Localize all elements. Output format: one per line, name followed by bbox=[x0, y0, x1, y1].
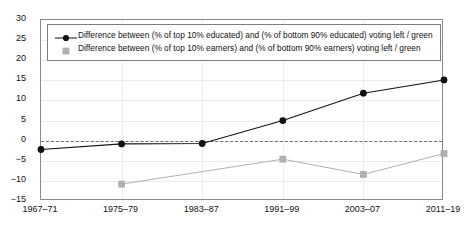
y-axis-tick-label: −15 bbox=[0, 195, 26, 204]
data-point-marker bbox=[360, 90, 367, 97]
y-axis-tick-label: 30 bbox=[0, 14, 26, 23]
series-1 bbox=[38, 77, 448, 153]
x-axis-tick-label: 2003–07 bbox=[327, 205, 397, 214]
legend-entry-educated[interactable]: Difference between (% of top 10% educate… bbox=[54, 29, 433, 42]
square-marker-icon bbox=[54, 43, 78, 55]
data-point-marker bbox=[279, 117, 286, 124]
x-axis-tick-label: 1967–71 bbox=[5, 205, 75, 214]
x-axis-tick-label: 2011–19 bbox=[408, 205, 470, 214]
y-axis-tick-label: 10 bbox=[0, 94, 26, 103]
series-2 bbox=[118, 150, 447, 187]
y-axis-tick-label: 15 bbox=[0, 74, 26, 83]
circle-line-marker-icon bbox=[54, 30, 78, 42]
y-axis-tick-label: −10 bbox=[0, 175, 26, 184]
x-axis-tick-label: 1991–99 bbox=[247, 205, 317, 214]
chart-container: 302520151050−5−10−15 1967–711975–791983–… bbox=[0, 0, 470, 231]
y-axis-tick-label: 0 bbox=[0, 135, 26, 144]
data-point-marker bbox=[199, 140, 206, 147]
data-point-marker bbox=[360, 171, 367, 178]
y-axis-tick-label: 5 bbox=[0, 115, 26, 124]
legend-label-educated: Difference between (% of top 10% educate… bbox=[78, 31, 433, 40]
y-axis-tick-label: 25 bbox=[0, 34, 26, 43]
series-line bbox=[41, 80, 444, 150]
data-point-marker bbox=[118, 181, 125, 188]
data-point-marker bbox=[38, 146, 45, 153]
y-axis-tick-label: −5 bbox=[0, 155, 26, 164]
x-axis-tick-label: 1983–87 bbox=[166, 205, 236, 214]
legend-label-earners: Difference between (% of top 10% earners… bbox=[78, 44, 421, 53]
data-point-marker bbox=[279, 156, 286, 163]
data-point-marker bbox=[441, 150, 448, 157]
data-point-marker bbox=[441, 77, 448, 84]
chart-legend: Difference between (% of top 10% educate… bbox=[47, 24, 441, 61]
legend-entry-earners[interactable]: Difference between (% of top 10% earners… bbox=[54, 42, 433, 55]
y-axis-tick-label: 20 bbox=[0, 54, 26, 63]
x-axis-tick-label: 1975–79 bbox=[86, 205, 156, 214]
data-point-marker bbox=[118, 140, 125, 147]
